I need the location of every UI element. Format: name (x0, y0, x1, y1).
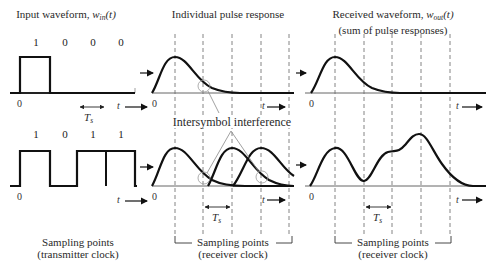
bottom-bit-4: 1 (118, 128, 124, 140)
received-bottom-zero: 0 (309, 191, 314, 202)
input-panel (10, 57, 147, 201)
received-sum-waveform (310, 134, 486, 186)
top-bit-3: 0 (90, 36, 96, 48)
top-bit-1: 1 (33, 36, 39, 48)
input-single-pulse (10, 57, 135, 93)
intersymbol-interference-diagram (0, 0, 494, 265)
input-footer-line2: (transmitter clock) (37, 248, 119, 260)
pulse-panel-title: Individual pulse response (172, 8, 284, 20)
pulse-footer-line1: Sampling points (197, 236, 269, 248)
top-bit-2: 0 (62, 36, 68, 48)
input-top-zero: 0 (17, 98, 22, 109)
input-footer-line1: Sampling points (37, 236, 119, 248)
received-top-t-label: t (456, 100, 459, 111)
pulse-bottom-zero: 0 (152, 191, 157, 202)
input-bottom-t-label: t (117, 194, 120, 205)
received-title-text: Received waveform, (332, 8, 426, 20)
received-panel (296, 34, 486, 243)
bottom-bit-1: 1 (33, 128, 39, 140)
single-pulse-response (152, 57, 294, 93)
input-bit-sequence (10, 151, 137, 186)
received-footer-line2: (receiver clock) (357, 248, 429, 260)
received-ts-label: Ts (373, 211, 382, 227)
input-top-t-label: t (117, 100, 120, 111)
pulse-bottom-t-label: t (262, 194, 265, 205)
received-title-suffix: (t) (443, 8, 453, 20)
pulse-ts-label: Ts (212, 211, 221, 227)
receiver-sampling-lines-right (335, 34, 450, 237)
ts-sub: s (218, 216, 221, 225)
bottom-bit-2: 0 (62, 128, 68, 140)
input-footer: Sampling points (transmitter clock) (37, 236, 119, 260)
received-footer: Sampling points (receiver clock) (357, 236, 429, 260)
received-title-sub: out (434, 13, 444, 22)
received-single-response (311, 57, 486, 93)
received-footer-line1: Sampling points (357, 236, 429, 248)
pulse-top-t-label: t (262, 100, 265, 111)
pulse-footer-line2: (receiver clock) (197, 248, 269, 260)
ts-sub: s (379, 216, 382, 225)
isi-annotation: Intersymbol interference (172, 116, 292, 128)
receiver-sampling-lines-mid (175, 34, 289, 237)
received-bottom-t-label: t (456, 194, 459, 205)
sampling-bracket-right (335, 236, 352, 243)
pulse-footer: Sampling points (receiver clock) (197, 236, 269, 260)
received-panel-title: Received waveform, wout(t) (sum of pulse… (332, 8, 453, 36)
received-title-var: w (426, 8, 433, 20)
sampling-bracket-mid (175, 236, 192, 243)
pulse-top-zero: 0 (152, 98, 157, 109)
input-title-text: Input waveform, (16, 8, 92, 20)
input-panel-title: Input waveform, win(t) (16, 8, 116, 24)
input-title-suffix: (t) (105, 8, 115, 20)
bottom-bit-3: 1 (90, 128, 96, 140)
received-top-zero: 0 (309, 98, 314, 109)
top-bit-4: 0 (118, 36, 124, 48)
input-ts-label: Ts (84, 111, 93, 127)
received-title-line2: (sum of pulse responses) (332, 24, 453, 36)
ts-sub: s (90, 116, 93, 125)
input-bottom-zero: 0 (17, 191, 22, 202)
